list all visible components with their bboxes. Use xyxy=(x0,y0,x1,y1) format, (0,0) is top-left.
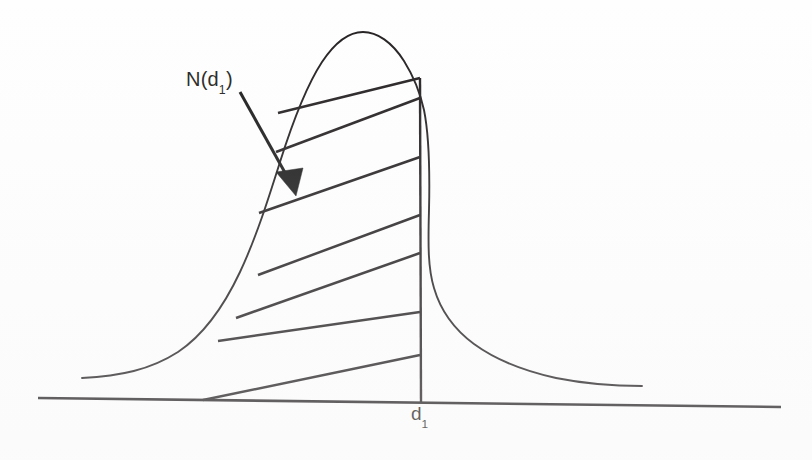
hatch-line-7 xyxy=(203,355,420,400)
axis-label-d1: d1 xyxy=(411,403,428,427)
curve-label-base: N(d xyxy=(186,68,219,90)
pointer-arrow xyxy=(240,92,303,196)
figure-root: N(d1) d1 xyxy=(0,0,812,460)
shaded-region-hatching xyxy=(203,78,420,400)
hatch-line-3 xyxy=(259,157,420,213)
arrow-shaft xyxy=(240,92,288,178)
curve-label-close: ) xyxy=(226,68,233,90)
hatch-line-6 xyxy=(218,312,420,341)
curve-label-nd1: N(d1) xyxy=(186,68,233,94)
hatch-line-1 xyxy=(278,78,420,113)
normal-distribution-diagram xyxy=(0,0,812,460)
hatch-line-2 xyxy=(276,98,420,152)
axis-label-subscript: 1 xyxy=(422,417,429,430)
arrow-head xyxy=(276,168,303,196)
axis-label-base: d xyxy=(411,403,422,424)
curve-label-subscript: 1 xyxy=(219,83,226,97)
x-axis-line xyxy=(38,398,781,407)
d1-vertical-boundary-line xyxy=(420,78,421,402)
hatch-line-5 xyxy=(236,253,420,318)
hatch-line-4 xyxy=(258,215,420,275)
normal-curve-path xyxy=(82,32,642,386)
